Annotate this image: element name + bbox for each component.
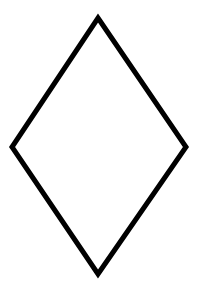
rhombus-shape bbox=[12, 18, 186, 274]
diagram-canvas bbox=[0, 0, 205, 287]
